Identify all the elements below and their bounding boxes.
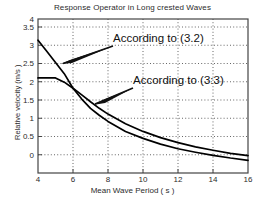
- y-tick-0: 0: [12, 151, 34, 160]
- x-tick-12: 12: [169, 175, 187, 184]
- y-tick-3: 3: [12, 41, 34, 50]
- chart-figure: Response Operator in Long crested Waves: [0, 0, 265, 206]
- annotation-label-3-2: According to (3.2): [113, 32, 204, 44]
- y-axis-label: Relative velocity (m/s ): [13, 65, 22, 140]
- x-tick-10: 10: [134, 175, 152, 184]
- x-axis-label: Mean Wave Period ( s ): [0, 186, 265, 195]
- x-tick-14: 14: [204, 175, 222, 184]
- annotation-arrow-3-2: [61, 46, 113, 64]
- x-tick-6: 6: [64, 175, 82, 184]
- x-tick-8: 8: [99, 175, 117, 184]
- y-tick-3-5: 3.5: [12, 23, 34, 32]
- annotation-arrows: [61, 46, 133, 105]
- annotation-arrow-3-3: [93, 88, 133, 105]
- x-tick-16: 16: [239, 175, 257, 184]
- annotation-label-3-3: According to (3:3): [133, 74, 224, 86]
- x-tick-4: 4: [29, 175, 47, 184]
